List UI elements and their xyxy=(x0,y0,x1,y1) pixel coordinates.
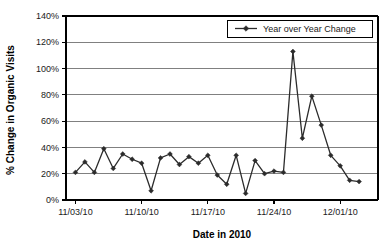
x-tick-label: 11/17/10 xyxy=(191,207,225,217)
y-tick-label: 140% xyxy=(36,11,59,21)
y-tick-label: 0% xyxy=(46,195,59,205)
data-point-marker xyxy=(319,123,324,128)
line-chart: 0%20%40%60%80%100%120%140% 11/03/1011/10… xyxy=(0,0,389,246)
x-tick-label: 11/03/10 xyxy=(58,207,92,217)
x-tick-label: 11/24/10 xyxy=(257,207,291,217)
gridlines-group xyxy=(66,16,378,174)
series-line-year-over-year-change xyxy=(75,51,359,193)
data-point-marker xyxy=(234,153,239,158)
tick-marks-group xyxy=(62,16,340,204)
axis-lines-group xyxy=(66,16,378,200)
y-tick-label: 60% xyxy=(41,116,59,126)
data-point-marker xyxy=(357,179,362,184)
y-tick-label: 120% xyxy=(36,37,59,47)
y-tick-label: 40% xyxy=(41,143,59,153)
data-point-marker xyxy=(291,49,296,54)
chart-container: 0%20%40%60%80%100%120%140% 11/03/1011/10… xyxy=(0,0,389,246)
data-point-marker xyxy=(149,188,154,193)
data-point-marker xyxy=(130,157,135,162)
data-point-marker xyxy=(272,169,277,174)
y-axis-title: % Change in Organic Visits xyxy=(5,45,16,175)
y-tick-label: 100% xyxy=(36,64,59,74)
y-tick-label: 80% xyxy=(41,90,59,100)
chart-legend: Year over Year Change xyxy=(227,20,372,37)
data-point-marker xyxy=(300,136,305,141)
x-tick-label: 12/01/10 xyxy=(323,207,358,217)
x-axis-title: Date in 2010 xyxy=(193,229,252,240)
data-point-marker xyxy=(158,156,163,161)
y-tick-labels-group: 0%20%40%60%80%100%120%140% xyxy=(36,11,59,205)
data-point-marker xyxy=(139,161,144,166)
data-point-marker xyxy=(243,191,248,196)
legend-entry-label: Year over Year Change xyxy=(263,24,356,34)
y-tick-label: 20% xyxy=(41,169,59,179)
x-tick-label: 11/10/10 xyxy=(124,207,158,217)
x-tick-labels-group: 11/03/1011/10/1011/17/1011/24/1012/01/10 xyxy=(58,207,357,217)
